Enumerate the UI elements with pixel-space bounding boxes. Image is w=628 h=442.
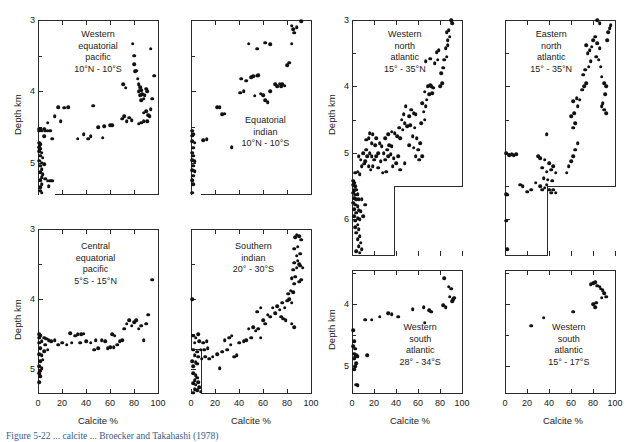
caption-line: north (384, 41, 426, 53)
data-point (370, 141, 374, 145)
y-tick-label: 3 (338, 16, 349, 25)
x-tick (440, 389, 441, 394)
x-tick-label: 40 (234, 399, 244, 408)
x-tick-label: 80 (435, 399, 445, 408)
data-point (404, 105, 408, 109)
x-tick (239, 190, 240, 195)
x-tick (505, 251, 506, 256)
x-tick (62, 20, 63, 25)
data-point (142, 97, 146, 101)
y-tick (505, 366, 510, 367)
caption-line: 15° - 17°S (548, 357, 589, 369)
data-point (59, 120, 63, 124)
data-point (547, 161, 551, 165)
data-point (211, 355, 215, 359)
data-point (298, 252, 302, 256)
x-tick (571, 251, 572, 256)
data-point (567, 164, 571, 168)
panel-caption: Southern indian 20° - 30°S (233, 241, 274, 276)
y-tick-minor (505, 53, 509, 54)
y-tick-label: 4 (24, 87, 35, 96)
data-point (132, 62, 136, 66)
data-point (391, 164, 395, 168)
data-point (39, 375, 43, 379)
data-point (600, 75, 604, 79)
data-point (585, 81, 589, 85)
data-point (423, 90, 427, 94)
y-tick-label: 6 (338, 215, 349, 224)
data-point (288, 61, 292, 65)
data-point (549, 168, 553, 172)
data-point (442, 66, 446, 70)
data-point (603, 93, 607, 97)
x-tick-label: 100 (303, 399, 318, 408)
x-tick (86, 229, 87, 234)
data-point (382, 151, 386, 155)
data-point (271, 306, 275, 310)
x-tick (62, 190, 63, 195)
caption-line: pacific (74, 52, 122, 64)
x-tick (549, 251, 550, 256)
data-point (380, 145, 384, 149)
data-point (580, 88, 584, 92)
data-point (352, 340, 356, 344)
data-point (453, 296, 457, 300)
data-point (439, 71, 443, 75)
x-tick (215, 389, 216, 394)
x-tick (263, 229, 264, 234)
data-point (66, 105, 70, 109)
caption-line: pacific (74, 264, 117, 276)
x-tick (571, 270, 572, 275)
data-point (268, 315, 272, 319)
data-point (40, 191, 44, 195)
data-point (607, 30, 611, 34)
y-tick-minor (352, 53, 356, 54)
data-point (89, 341, 93, 345)
x-tick (287, 20, 288, 25)
y-tick-label: 3 (24, 16, 35, 25)
data-point (57, 105, 61, 109)
y-tick-label: 5 (338, 362, 349, 371)
x-tick (239, 389, 240, 394)
data-point (283, 84, 287, 88)
data-point (94, 338, 98, 342)
x-tick-label: 40 (544, 399, 554, 408)
data-point (596, 18, 600, 22)
data-point (359, 158, 363, 162)
caption-line: Southern (233, 241, 274, 253)
data-point (42, 135, 46, 139)
x-tick (593, 251, 594, 256)
data-point (47, 185, 51, 189)
data-point (390, 312, 394, 316)
data-point (150, 97, 154, 101)
data-point (401, 128, 405, 132)
y-axis-title: Depth km (12, 299, 23, 340)
x-tick (263, 190, 264, 195)
data-point (82, 332, 86, 336)
data-point (280, 301, 284, 305)
data-point (438, 85, 442, 89)
x-tick (374, 389, 375, 394)
y-tick-label: 3 (24, 225, 35, 234)
x-tick (593, 270, 594, 275)
data-point (588, 48, 592, 52)
data-point (103, 340, 107, 344)
data-point (554, 191, 558, 195)
data-point (255, 47, 259, 51)
data-point (440, 81, 444, 85)
data-point (541, 166, 545, 170)
data-point (218, 105, 222, 109)
data-point (283, 306, 287, 310)
data-point (433, 61, 437, 65)
data-point (132, 54, 136, 58)
x-tick (239, 20, 240, 25)
data-point (136, 77, 140, 81)
data-point (443, 58, 447, 62)
data-point (193, 170, 197, 174)
data-point (352, 357, 356, 361)
data-point (144, 322, 148, 326)
data-point (40, 354, 44, 358)
x-axis-title: Calcite % (231, 415, 271, 426)
data-point (292, 31, 296, 35)
data-point (578, 98, 582, 102)
